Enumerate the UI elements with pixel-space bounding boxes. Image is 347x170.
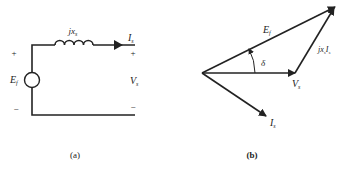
delta-label: δ: [261, 58, 266, 68]
top-wire-left: [32, 45, 55, 72]
vs-label: Vs: [292, 78, 301, 90]
terminal-plus-sign: +: [130, 48, 135, 58]
ef-label: Ef: [262, 24, 272, 36]
voltage-source-icon: [25, 73, 40, 88]
source-minus-sign: −: [13, 104, 18, 114]
is-phasor-arrow: [202, 73, 266, 116]
caption-a: (a): [70, 150, 80, 160]
equivalent-circuit: jxs Is + − + − Ef Vs (a): [9, 26, 139, 160]
is-label: Is: [269, 117, 276, 129]
reactive-drop-label: jxsIs: [317, 45, 330, 55]
terminal-voltage-label: Vs: [130, 75, 139, 87]
delta-angle-arc: [249, 49, 255, 73]
source-label: Ef: [9, 74, 19, 86]
current-arrow-icon: [114, 40, 123, 50]
current-label: Is: [127, 32, 134, 44]
source-plus-sign: +: [11, 48, 16, 58]
reactance-label: jxs: [68, 26, 79, 37]
terminal-minus-sign: −: [130, 102, 135, 112]
bottom-wire: [32, 88, 135, 115]
diagram-canvas: jxs Is + − + − Ef Vs (a) Ef δ Vs Is jxsI…: [0, 0, 347, 170]
caption-b: (b): [247, 150, 258, 160]
phasor-diagram: Ef δ Vs Is jxsIs (b): [202, 7, 335, 160]
inductor-icon: [55, 41, 93, 46]
